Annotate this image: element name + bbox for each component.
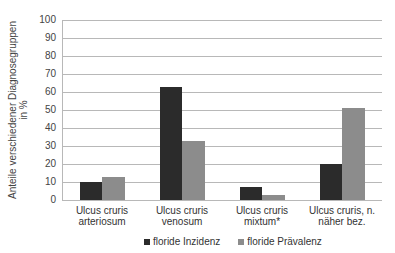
legend-item-prevalence: floride Prävalenz [238, 236, 321, 247]
x-tick-label: Ulcus cruris, n.näher bez. [302, 205, 382, 227]
y-tick-label: 40 [36, 123, 56, 133]
bar-prevalence [342, 108, 365, 200]
y-tick-label: 0 [36, 195, 56, 205]
gridline [62, 38, 382, 39]
gridline [62, 74, 382, 75]
bar-prevalence [182, 141, 205, 200]
gridline [62, 20, 382, 21]
bar-incidence [240, 187, 263, 200]
legend-swatch-dark [144, 239, 150, 245]
y-tick-label: 90 [36, 33, 56, 43]
bar-prevalence [262, 195, 285, 200]
bar-prevalence [102, 177, 125, 200]
gridline [62, 200, 382, 201]
gridline [62, 128, 382, 129]
gridline [62, 56, 382, 57]
bar-incidence [80, 182, 103, 200]
y-tick-label: 100 [36, 15, 56, 25]
legend-label: floride Inzidenz [153, 236, 220, 247]
x-tick-label: Ulcus crurisarteriosum [62, 205, 142, 227]
gridline [62, 110, 382, 111]
gridline [62, 146, 382, 147]
y-axis-label-line-1: Anteile verschiedener Diagnosegruppen [7, 21, 18, 199]
x-tick-label: Ulcus crurismixtum* [222, 205, 302, 227]
y-axis-label-line-2: in % [18, 21, 29, 199]
y-tick-label: 20 [36, 159, 56, 169]
legend-item-incidence: floride Inzidenz [144, 236, 220, 247]
y-tick-label: 80 [36, 51, 56, 61]
y-tick-label: 60 [36, 87, 56, 97]
y-tick-label: 70 [36, 69, 56, 79]
bar-incidence [320, 164, 343, 200]
legend: floride Inzidenz floride Prävalenz [144, 236, 322, 247]
bar-incidence [160, 87, 183, 200]
y-axis-label: Anteile verschiedener Diagnosegruppen in… [0, 20, 36, 200]
legend-label: floride Prävalenz [247, 236, 321, 247]
y-tick-label: 30 [36, 141, 56, 151]
legend-swatch-light [238, 239, 244, 245]
gridline [62, 92, 382, 93]
x-tick-label: Ulcus crurisvenosum [142, 205, 222, 227]
y-axis-line [62, 20, 63, 200]
y-tick-label: 10 [36, 177, 56, 187]
y-tick-label: 50 [36, 105, 56, 115]
